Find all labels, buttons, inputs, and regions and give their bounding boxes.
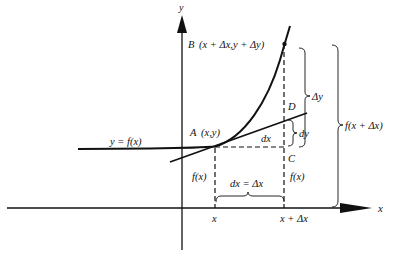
- dx-equals-delta-x-label: dx = Δx: [230, 178, 263, 189]
- derivative-diagram: y x B (x + Δx,y + Δy) A (x,y) D C y = f: [0, 0, 398, 263]
- delta-y-label: Δy: [311, 91, 323, 102]
- axes: y x: [7, 2, 383, 250]
- dx-label: dx: [261, 133, 271, 144]
- f-x-right-label: f(x): [290, 171, 305, 183]
- point-B-label: B: [188, 39, 195, 50]
- y-axis-label: y: [178, 2, 184, 13]
- point-C-label: C: [288, 153, 296, 164]
- point-D-label: D: [287, 101, 296, 112]
- dy-label: dy: [299, 128, 309, 139]
- curve-label: y = f(x): [109, 136, 142, 148]
- point-B-dot: [282, 42, 286, 46]
- point-A-label: A: [189, 127, 197, 138]
- point-B-coords: (x + Δx,y + Δy): [199, 39, 265, 51]
- dy-brace: [288, 120, 297, 146]
- x-axis-arrow-icon: [340, 203, 372, 213]
- f-x-left-label: f(x): [192, 171, 207, 183]
- y-axis-arrow-icon: [177, 15, 187, 33]
- f-x-plus-dx-brace: [332, 45, 343, 207]
- x-axis-label: x: [377, 202, 383, 214]
- tick-x-plus-dx-label: x + Δx: [279, 213, 308, 224]
- dx-equals-delta-x-brace: [216, 192, 284, 202]
- tick-x-label: x: [211, 213, 217, 224]
- f-x-plus-dx-label: f(x + Δx): [345, 120, 383, 132]
- point-A-coords: (x,y): [201, 127, 220, 139]
- labels: B (x + Δx,y + Δy) A (x,y) D C y = f(x) d…: [109, 39, 383, 224]
